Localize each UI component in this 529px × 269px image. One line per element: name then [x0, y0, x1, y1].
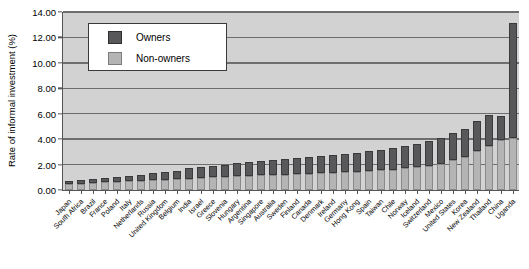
bar-stack — [473, 121, 480, 190]
bar-segment-non-owners — [125, 181, 132, 190]
bar-segment-owners — [461, 129, 468, 157]
bar-segment-owners — [125, 176, 132, 182]
legend-swatch-owners — [108, 31, 122, 44]
bar-segment-non-owners — [209, 177, 216, 190]
bar-stack — [485, 115, 492, 190]
bar-stack — [329, 155, 336, 190]
bar-segment-non-owners — [137, 181, 144, 190]
bar-segment-non-owners — [305, 174, 312, 190]
chart-legend: Owners Non-owners — [88, 23, 227, 71]
bar-stack — [233, 163, 240, 190]
bar-segment-owners — [161, 172, 168, 180]
bar-stack — [425, 141, 432, 190]
bar-segment-owners — [377, 150, 384, 171]
bar-stack — [317, 156, 324, 190]
bar-segment-non-owners — [161, 180, 168, 190]
bar-segment-owners — [65, 181, 72, 184]
bar-stack — [509, 23, 516, 190]
bar-stack — [365, 151, 372, 190]
bar-segment-owners — [401, 146, 408, 169]
bar-segment-owners — [353, 153, 360, 172]
y-axis-tick-label: 4.00 — [38, 134, 57, 145]
bar-segment-non-owners — [185, 179, 192, 190]
bar-segment-non-owners — [101, 182, 108, 190]
bar-segment-non-owners — [449, 160, 456, 191]
bar-stack — [125, 176, 132, 190]
chart-figure: Rate of informal investment (%) 0.002.00… — [0, 0, 529, 269]
bar-segment-non-owners — [401, 168, 408, 190]
bar-segment-non-owners — [113, 182, 120, 190]
bar-segment-non-owners — [389, 170, 396, 190]
bar-stack — [389, 148, 396, 190]
bar-stack — [353, 153, 360, 191]
bar-segment-owners — [365, 151, 372, 171]
legend-label-owners: Owners — [136, 32, 170, 43]
bar-segment-owners — [197, 167, 204, 178]
bar-segment-owners — [221, 165, 228, 177]
bar-stack — [149, 173, 156, 190]
y-axis-tick-label: 6.00 — [38, 108, 57, 119]
y-axis-tick-label: 0.00 — [38, 185, 57, 196]
bar-segment-owners — [77, 180, 84, 184]
bar-segment-non-owners — [221, 177, 228, 190]
bar-segment-non-owners — [281, 175, 288, 191]
legend-item-non-owners: Non-owners — [89, 48, 226, 68]
bar-stack — [377, 150, 384, 190]
bar-segment-owners — [113, 177, 120, 182]
bar-segment-owners — [509, 23, 516, 137]
bar-segment-owners — [293, 158, 300, 174]
bar-stack — [437, 138, 444, 190]
bar-segment-non-owners — [329, 173, 336, 190]
x-axis-tick-label-group: JapanSouth AfricaBrazilFrancePolandItaly… — [62, 191, 518, 269]
bar-segment-owners — [269, 160, 276, 175]
bar-segment-non-owners — [461, 157, 468, 190]
bar-stack — [65, 181, 72, 190]
bar-segment-owners — [89, 179, 96, 183]
bar-segment-owners — [485, 115, 492, 146]
bar-segment-non-owners — [353, 172, 360, 190]
bar-stack — [305, 157, 312, 190]
bar-segment-non-owners — [89, 183, 96, 190]
legend-item-owners: Owners — [89, 27, 226, 47]
bar-segment-owners — [497, 116, 504, 140]
bar-segment-non-owners — [149, 180, 156, 190]
y-axis-tick-label: 2.00 — [38, 159, 57, 170]
bar-stack — [497, 116, 504, 190]
bar-segment-non-owners — [497, 140, 504, 190]
bar-stack — [269, 160, 276, 190]
bar-segment-owners — [449, 133, 456, 160]
bar-segment-non-owners — [473, 151, 480, 190]
bar-segment-owners — [317, 156, 324, 174]
bar-stack — [197, 167, 204, 190]
bar-segment-owners — [233, 163, 240, 176]
bar-segment-owners — [389, 148, 396, 170]
bar-segment-non-owners — [425, 166, 432, 190]
bar-stack — [209, 166, 216, 190]
bar-segment-non-owners — [293, 174, 300, 190]
bar-stack — [341, 154, 348, 190]
bar-segment-owners — [101, 178, 108, 182]
bar-segment-non-owners — [269, 175, 276, 190]
bar-segment-non-owners — [509, 138, 516, 190]
bar-segment-owners — [173, 171, 180, 180]
y-axis-tick-label: 12.00 — [32, 32, 56, 43]
bar-segment-non-owners — [485, 146, 492, 191]
bar-segment-owners — [281, 159, 288, 174]
bar-segment-non-owners — [233, 176, 240, 190]
bar-segment-non-owners — [257, 175, 264, 190]
y-axis-tick-label: 10.00 — [32, 57, 56, 68]
bar-stack — [77, 180, 84, 190]
bar-segment-owners — [245, 162, 252, 176]
bar-segment-non-owners — [317, 173, 324, 190]
bar-stack — [161, 172, 168, 190]
bar-segment-owners — [257, 161, 264, 175]
bar-stack — [113, 177, 120, 190]
bar-stack — [413, 144, 420, 190]
bar-stack — [137, 175, 144, 191]
bar-segment-owners — [437, 138, 444, 164]
bar-segment-owners — [185, 168, 192, 178]
bar-segment-owners — [413, 144, 420, 168]
bar-stack — [461, 129, 468, 190]
bar-stack — [173, 171, 180, 190]
bar-segment-non-owners — [437, 164, 444, 190]
